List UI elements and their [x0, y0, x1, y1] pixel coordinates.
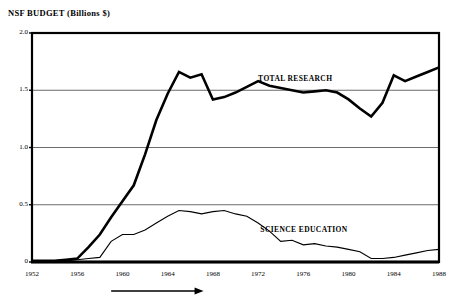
series-lines [32, 67, 439, 261]
time-span-arrow-icon [111, 288, 203, 295]
series-line-0 [32, 67, 439, 261]
x-tick-label: 1956 [59, 270, 95, 278]
x-tick-label: 1964 [150, 270, 186, 278]
x-tick-label: 1976 [285, 270, 321, 278]
x-tick-label: 1980 [331, 270, 367, 278]
x-tick-label: 1972 [240, 270, 276, 278]
x-tick-label: 1952 [14, 270, 50, 278]
chart-page: NSF BUDGET (Billions $) 2.01.51.00.50 19… [0, 0, 457, 303]
y-tick-label: 0.5 [2, 200, 28, 208]
y-tick-label: 1.5 [2, 85, 28, 93]
arrow-head [195, 288, 204, 295]
x-tick-label: 1984 [376, 270, 412, 278]
x-tick-label: 1968 [195, 270, 231, 278]
y-tick-label: 1.0 [2, 143, 28, 151]
total-research-label: TOTAL RESEARCH [258, 74, 332, 83]
science-education-label: SCIENCE EDUCATION [260, 225, 347, 234]
y-tick-label: 2.0 [2, 28, 28, 36]
series-line-1 [32, 210, 439, 260]
x-tick-label: 1988 [421, 270, 457, 278]
y-tick-label: 0 [2, 257, 28, 265]
chart-plot-area [0, 0, 457, 303]
x-tick-label: 1960 [104, 270, 140, 278]
